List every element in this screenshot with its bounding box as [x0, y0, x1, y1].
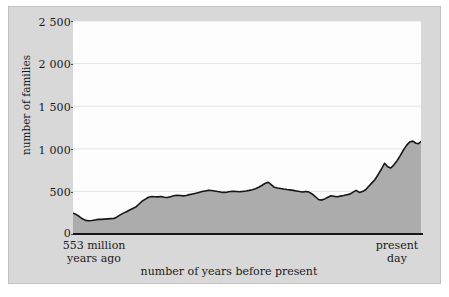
y-tick-label-2000: 2 000 [13, 59, 71, 70]
y-tick-label-500: 500 [13, 187, 71, 198]
y-tick-label-2500: 2 500 [13, 17, 71, 28]
x-axis-title: number of years before present [69, 265, 389, 278]
x-axis-left-label-line2: years ago [39, 252, 149, 265]
y-tick-label-0: 0 [13, 228, 71, 239]
area-series-fill [73, 141, 421, 234]
chart-figure: number of families 2 500 2 000 1 500 1 0… [8, 6, 441, 284]
x-axis-left-label: 553 million years ago [39, 239, 149, 265]
gridlines [73, 21, 421, 191]
chart-svg [73, 21, 421, 234]
y-tick-label-1500: 1 500 [13, 102, 71, 113]
y-tick-label-1000: 1 000 [13, 145, 71, 156]
x-axis-line [73, 233, 423, 235]
plot-area [73, 21, 421, 234]
x-axis-right-label-line1: present [359, 239, 435, 252]
x-axis-left-label-line1: 553 million [39, 239, 149, 252]
x-axis-right-label: present day [359, 239, 435, 265]
x-axis-right-label-line2: day [359, 252, 435, 265]
